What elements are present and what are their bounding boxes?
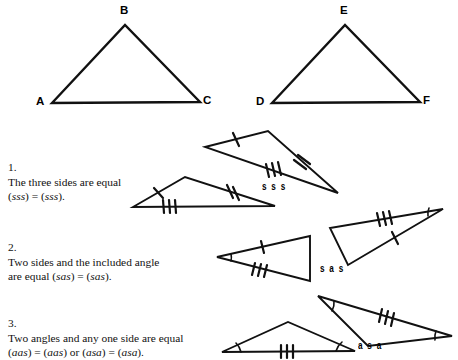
rule-asa-symbol-3: asa: [86, 346, 102, 358]
rule-sas-symbol-2: sas: [90, 270, 105, 282]
rule-asa-symbol-1: aas: [12, 346, 28, 358]
rule-sas-paren-close: ).: [105, 270, 112, 282]
rule-sss-line1: The three sides are equal: [8, 175, 121, 190]
vertex-label-b: B: [120, 4, 128, 16]
rule-asa-symbol-2: aas: [47, 346, 63, 358]
criterion-label-sss: s s s: [262, 180, 286, 192]
vertex-label-d: D: [256, 95, 264, 107]
rule-asa-number: 3.: [8, 316, 17, 331]
rule-sas-number: 2.: [8, 240, 17, 255]
criterion-label-sas: s a s: [320, 262, 344, 274]
geometry-figure-page: A B C D E F 1. The three sides are equal…: [0, 0, 458, 360]
rule-sss-equals: ) = (: [25, 190, 45, 202]
rule-asa-line2: (aas) = (aas) or (asa) = (asa).: [8, 345, 183, 360]
vertex-label-a: A: [36, 95, 44, 107]
criterion-label-asa: a s a: [358, 339, 382, 351]
rule-asa-line1: Two angles and any one side are equal: [8, 331, 183, 346]
rule-asa-or: ) or (: [63, 346, 86, 358]
sss-lower-triangle: [133, 177, 275, 213]
asa-lower-triangle: [222, 322, 355, 358]
rule-asa-paren-close: ).: [137, 346, 144, 358]
triangle-def-outline: [272, 25, 420, 103]
rule-sss-text: 1. The three sides are equal (sss) = (ss…: [8, 160, 121, 204]
rule-sas-text: 2. Two sides and the included angle are …: [8, 240, 159, 284]
rule-sss-symbol-1: sss: [12, 190, 25, 202]
rule-asa-equals-1: ) = (: [28, 346, 48, 358]
rule-sss-paren-close: ).: [58, 190, 65, 202]
sas-left-triangle: [217, 236, 310, 281]
rule-asa-symbol-4: asa: [122, 346, 138, 358]
rule-sss-line2: (sss) = (sss).: [8, 189, 121, 204]
asa-upper-triangle: [318, 296, 452, 346]
rule-sss-number: 1.: [8, 160, 17, 175]
rule-sas-line1: Two sides and the included angle: [8, 255, 159, 270]
sas-right-triangle: [330, 208, 443, 265]
rule-sss-symbol-2: sss: [45, 190, 58, 202]
rule-asa-equals-2: ) = (: [102, 346, 122, 358]
rule-sas-equals: ) = (: [71, 270, 91, 282]
vertex-label-c: C: [203, 94, 211, 106]
rule-sss-body: The three sides are equal (sss) = (sss).: [8, 175, 121, 204]
vertex-label-e: E: [340, 4, 348, 16]
rule-asa-body: Two angles and any one side are equal (a…: [8, 331, 183, 360]
rule-sas-line2: are equal (sas) = (sas).: [8, 269, 159, 284]
rule-sas-symbol-1: sas: [56, 270, 71, 282]
triangle-abc-outline: [52, 25, 200, 103]
vertex-label-f: F: [423, 94, 430, 106]
rule-sas-body: Two sides and the included angle are equ…: [8, 255, 159, 284]
rule-sas-paren-open: are equal (: [8, 270, 56, 282]
rule-asa-text: 3. Two angles and any one side are equal…: [8, 316, 183, 360]
